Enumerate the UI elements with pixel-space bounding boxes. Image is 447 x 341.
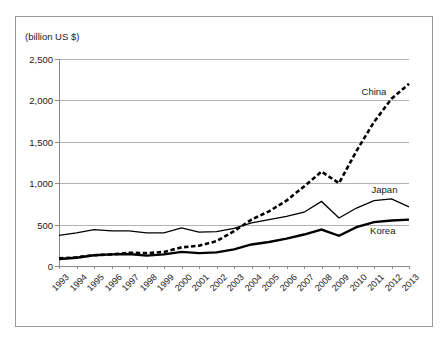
x-tick-mark (164, 266, 165, 269)
x-tick-mark (304, 266, 305, 269)
x-tick-mark (252, 266, 253, 269)
x-tick-label-text: 2012 (382, 272, 403, 293)
x-tick-mark (409, 266, 410, 269)
axis-unit-label: (billion US $) (25, 31, 79, 42)
x-tick-mark (147, 266, 148, 269)
y-tick-label: 500 (37, 219, 53, 230)
x-tick-label-text: 2006 (277, 272, 298, 293)
series-line-china (59, 84, 409, 259)
x-tick-label-text: 2004 (242, 272, 263, 293)
x-tick-label-text: 2001 (190, 272, 211, 293)
x-tick-label-text: 1993 (50, 272, 71, 293)
x-tick-mark (129, 266, 130, 269)
x-tick-label-text: 1999 (155, 272, 176, 293)
x-tick-label-text: 1996 (102, 272, 123, 293)
x-tick-label-text: 2000 (172, 272, 193, 293)
series-line-korea (59, 220, 409, 259)
x-tick-mark (322, 266, 323, 269)
x-tick-label-text: 2010 (347, 272, 368, 293)
x-tick-mark (234, 266, 235, 269)
y-tick-label: 1,000 (29, 178, 53, 189)
x-tick-mark (339, 266, 340, 269)
x-tick-label-text: 2008 (312, 272, 333, 293)
x-tick-mark (357, 266, 358, 269)
x-tick-mark (182, 266, 183, 269)
series-label-korea: Korea (370, 225, 395, 236)
x-tick-label-text: 1994 (67, 272, 88, 293)
x-tick-label-text: 1995 (85, 272, 106, 293)
y-tick-label: 0 (48, 261, 53, 272)
x-tick-mark (59, 266, 60, 269)
x-tick-label-text: 1997 (120, 272, 141, 293)
y-tick-label: 2,000 (29, 95, 53, 106)
x-tick-label-text: 2002 (207, 272, 228, 293)
y-tick-label: 2,500 (29, 54, 53, 65)
x-tick-label-text: 2013 (400, 272, 421, 293)
x-tick-label-text: 2003 (225, 272, 246, 293)
x-tick-label-text: 2007 (295, 272, 316, 293)
x-tick-mark (112, 266, 113, 269)
series-label-japan: Japan (372, 183, 398, 194)
x-tick-label-text: 2009 (330, 272, 351, 293)
x-tick-mark (217, 266, 218, 269)
x-tick-mark (392, 266, 393, 269)
series-lines (59, 59, 409, 266)
x-tick-label-text: 2011 (365, 272, 386, 293)
x-tick-mark (269, 266, 270, 269)
series-label-china: China (362, 86, 387, 97)
x-tick-mark (94, 266, 95, 269)
x-tick-label-text: 1998 (137, 272, 158, 293)
plot-area: 05001,0001,5002,0002,500 199319941995199… (59, 59, 409, 266)
series-line-japan (59, 199, 409, 235)
x-tick-mark (199, 266, 200, 269)
x-tick-mark (77, 266, 78, 269)
y-tick-label: 1,500 (29, 136, 53, 147)
chart-figure: (billion US $) 05001,0001,5002,0002,500 … (15, 16, 433, 327)
x-tick-mark (287, 266, 288, 269)
x-tick-mark (374, 266, 375, 269)
x-tick-label-text: 2005 (260, 272, 281, 293)
